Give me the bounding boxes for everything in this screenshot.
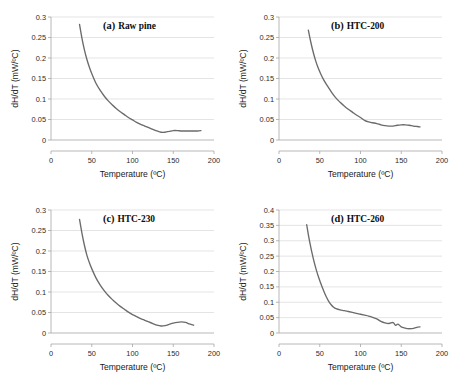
y-tick-label: 0.05 [260,313,274,322]
x-tick-label: 50 [88,349,96,358]
x-tick-label: 100 [354,349,366,358]
x-tick-label: 0 [277,156,281,165]
y-tick-label: 0.05 [32,115,46,124]
chart-svg-c: 00.050.10.150.20.250.3050100150200Temper… [0,193,228,385]
gridlines-b [279,17,442,140]
y-tick-label: 0.25 [32,33,46,42]
x-tick-label: 50 [316,349,324,358]
x-tick-label: 200 [436,156,448,165]
y-tick-label: 0.05 [260,115,274,124]
y-tick-label: 0.15 [260,74,274,83]
y-tick-label: 0 [42,329,46,338]
y-tick-label: 0.2 [36,54,46,63]
x-axis-title-c: Temperature (ºC) [100,362,166,372]
panel-title-d: (d)HTC-260 [331,213,385,225]
x-tick-label: 100 [126,349,138,358]
x-tick-label: 150 [395,349,407,358]
y-tick-label: 0 [42,136,46,145]
chart-panel-c: 00.050.10.150.20.250.3050100150200Temper… [0,193,228,385]
panel-title-c: (c)HTC-230 [103,213,155,225]
y-tick-label: 0 [270,136,274,145]
y-axis-title-a: dH/dT (mW/ºC) [10,49,20,107]
y-tick-label: 0.15 [260,282,274,291]
x-axis-ticks-c: 050100150200 [49,344,220,358]
x-tick-label: 0 [49,349,53,358]
x-axis-ticks-a: 050100150200 [49,151,220,165]
y-axis-ticks-d: 00.050.10.150.20.250.30.350.4 [260,206,279,338]
x-tick-label: 200 [208,349,220,358]
y-tick-label: 0.05 [32,308,46,317]
x-tick-label: 0 [49,156,53,165]
figure-dsc-panels: 00.050.10.150.20.250.3050100150200Temper… [0,0,456,385]
y-axis-title-c: dH/dT (mW/ºC) [10,242,20,300]
x-axis-ticks-b: 050100150200 [277,151,448,165]
data-curve-c [80,219,194,326]
x-tick-label: 50 [316,156,324,165]
panel-title-b: (b)HTC-200 [331,20,385,32]
y-tick-label: 0.15 [32,267,46,276]
y-axis-ticks-a: 00.050.10.150.20.250.3 [32,13,51,145]
chart-panel-a: 00.050.10.150.20.250.3050100150200Temper… [0,0,228,192]
x-axis-title-b: Temperature (ºC) [328,169,394,179]
y-tick-label: 0 [270,329,274,338]
x-tick-label: 50 [88,156,96,165]
y-tick-label: 0.1 [36,288,46,297]
x-tick-label: 100 [126,156,138,165]
x-tick-label: 150 [167,156,179,165]
x-tick-label: 150 [167,349,179,358]
y-axis-title-b: dH/dT (mW/ºC) [238,49,248,107]
y-tick-label: 0.1 [264,298,274,307]
y-tick-label: 0.35 [260,221,274,230]
y-tick-label: 0.4 [264,206,274,215]
y-axis-ticks-c: 00.050.10.150.20.250.3 [32,206,51,338]
y-axis-title-d: dH/dT (mW/ºC) [238,242,248,300]
x-tick-label: 200 [436,349,448,358]
y-tick-label: 0.3 [264,13,274,22]
chart-svg-d: 00.050.10.150.20.250.30.350.405010015020… [228,193,456,385]
chart-svg-a: 00.050.10.150.20.250.3050100150200Temper… [0,0,228,192]
y-tick-label: 0.3 [36,206,46,215]
y-tick-label: 0.2 [264,54,274,63]
x-tick-label: 100 [354,156,366,165]
x-axis-title-d: Temperature (ºC) [328,362,394,372]
y-tick-label: 0.3 [36,13,46,22]
y-tick-label: 0.3 [264,236,274,245]
y-tick-label: 0.2 [36,247,46,256]
y-tick-label: 0.1 [36,95,46,104]
y-tick-label: 0.2 [264,267,274,276]
chart-panel-d: 00.050.10.150.20.250.30.350.405010015020… [228,193,456,385]
y-axis-ticks-b: 00.050.10.150.20.250.3 [260,13,279,145]
gridlines-a [51,17,214,140]
panel-title-a: (a)Raw pine [103,20,156,32]
x-tick-label: 150 [395,156,407,165]
x-tick-label: 0 [277,349,281,358]
data-curve-d [307,225,420,329]
y-tick-label: 0.25 [32,226,46,235]
y-tick-label: 0.1 [264,95,274,104]
x-tick-label: 200 [208,156,220,165]
y-tick-label: 0.25 [260,252,274,261]
y-tick-label: 0.25 [260,33,274,42]
chart-svg-b: 00.050.10.150.20.250.3050100150200Temper… [228,0,456,192]
chart-panel-b: 00.050.10.150.20.250.3050100150200Temper… [228,0,456,192]
x-axis-ticks-d: 050100150200 [277,344,448,358]
x-axis-title-a: Temperature (ºC) [100,169,166,179]
y-tick-label: 0.15 [32,74,46,83]
